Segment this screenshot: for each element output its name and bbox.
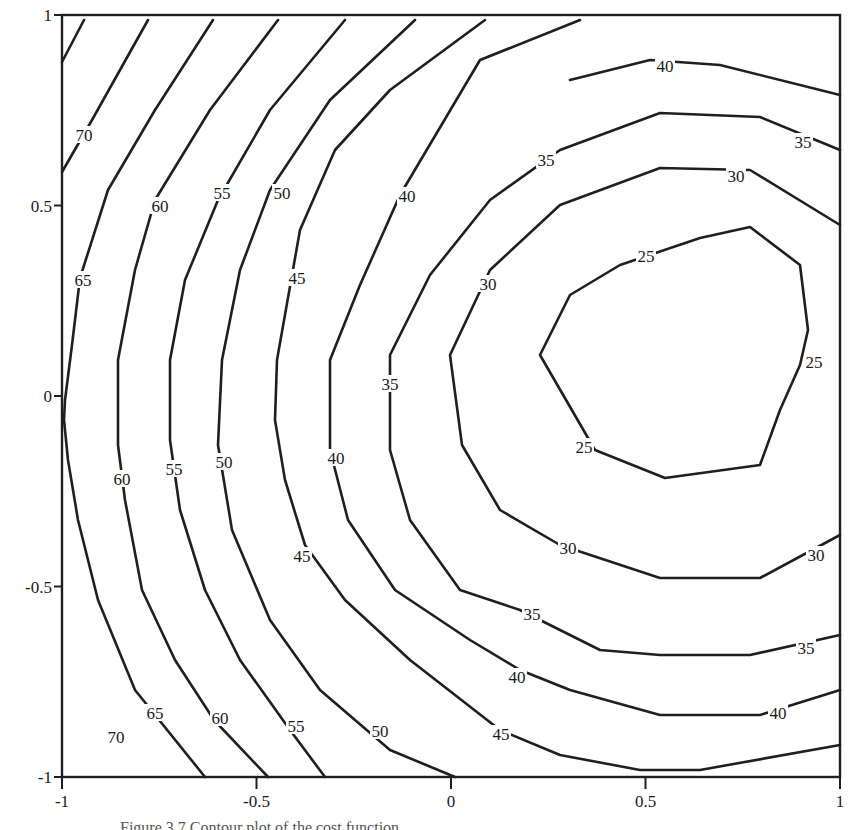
contour-line-30	[450, 168, 840, 578]
contour-label: 60	[114, 470, 131, 489]
contour-label: 65	[147, 704, 164, 723]
contour-line-70	[62, 20, 148, 172]
contour-plot: 7060555040354035302565453035252560555040…	[0, 0, 867, 830]
contour-label: 25	[638, 247, 655, 266]
contour-label: 50	[274, 184, 291, 203]
contour-label: 60	[152, 197, 169, 216]
contour-line-70	[62, 20, 84, 62]
contour-label: 50	[216, 453, 233, 472]
y-tick-label: 0.5	[31, 197, 52, 216]
contour-label: 35	[538, 151, 555, 170]
contour-lines	[62, 20, 840, 777]
contour-label: 70	[108, 728, 125, 747]
contour-label: 45	[294, 547, 311, 566]
contour-label: 45	[289, 269, 306, 288]
contour-line-40	[570, 60, 840, 95]
contour-label: 60	[212, 709, 229, 728]
contour-line-40	[330, 20, 840, 715]
figure-caption: Figure 3.7 Contour plot of the cost func…	[120, 814, 399, 830]
contour-label: 35	[798, 639, 815, 658]
x-tick-label: 0	[447, 792, 456, 811]
contour-label: 40	[657, 57, 674, 76]
contour-label: 40	[770, 704, 787, 723]
y-tick-label: -1	[38, 768, 52, 787]
contour-label: 50	[372, 722, 389, 741]
contour-label: 40	[509, 668, 526, 687]
x-tick-label: -1	[55, 792, 69, 811]
y-tick-label: 0	[44, 387, 53, 406]
contour-label: 35	[524, 605, 541, 624]
contour-label: 35	[795, 133, 812, 152]
x-axis-ticks: -1-0.500.51	[55, 777, 844, 811]
contour-line-50	[218, 20, 455, 777]
contour-label: 45	[493, 725, 510, 744]
x-tick-label: 1	[836, 792, 845, 811]
contour-label: 65	[75, 271, 92, 290]
contour-label: 30	[560, 539, 577, 558]
contour-line-35	[390, 113, 840, 655]
contour-labels: 7060555040354035302565453035252560555040…	[73, 57, 826, 747]
contour-label: 55	[166, 460, 183, 479]
contour-label: 30	[808, 546, 825, 565]
y-tick-label: -0.5	[25, 578, 52, 597]
contour-label: 25	[806, 353, 823, 372]
y-tick-label: 1	[44, 6, 53, 25]
plot-frame	[62, 15, 840, 777]
contour-label: 30	[480, 275, 497, 294]
contour-label: 55	[214, 184, 231, 203]
contour-label: 55	[288, 717, 305, 736]
contour-label: 40	[328, 449, 345, 468]
contour-label: 25	[576, 438, 593, 457]
contour-label: 30	[728, 167, 745, 186]
x-tick-label: -0.5	[243, 792, 270, 811]
contour-label: 40	[399, 187, 416, 206]
contour-label: 70	[76, 126, 93, 145]
x-tick-label: 0.5	[635, 792, 656, 811]
y-axis-ticks: -1-0.500.51	[25, 6, 62, 787]
contour-line-45	[275, 20, 840, 770]
contour-label: 35	[382, 375, 399, 394]
